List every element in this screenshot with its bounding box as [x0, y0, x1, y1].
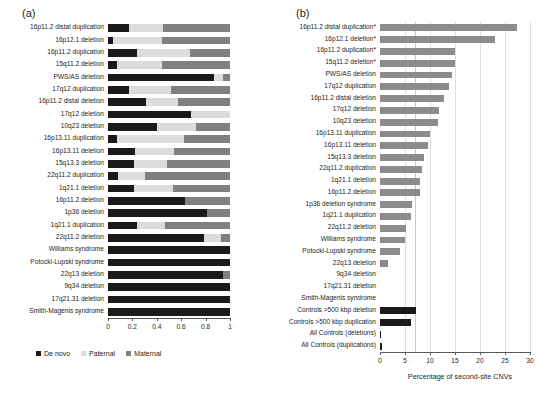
panel-a-bar-segment-maternal: [165, 222, 230, 229]
panel-b-bar: [380, 48, 455, 55]
panel-b-row-label: 1q21.1 duplication: [270, 212, 376, 219]
panel-b-gridline: [530, 22, 531, 352]
legend-item-maternal: Maternal: [126, 350, 161, 357]
panel-a-stacked-bar: [108, 283, 230, 290]
panel-a-row-label: 16p11.2 deletion: [0, 197, 104, 204]
panel-a-tick-label: 0.6: [169, 323, 193, 330]
panel-a-bar-segment-maternal: [184, 135, 230, 142]
panel-b-row-label: Williams syndrome: [270, 236, 376, 243]
panel-a-bar-segment-maternal: [223, 271, 230, 278]
panel-a-bar-segment-de-novo: [108, 24, 129, 31]
panel-a-stacked-bar: [108, 259, 230, 266]
panel-a-stacked-bar: [108, 98, 230, 105]
panel-b-row-label: Controls >500 kbp deletion: [270, 307, 376, 314]
panel-a-row-label: 17q12 duplication: [0, 86, 104, 93]
panel-a-row-label: 16p11.2 distal duplication: [0, 24, 104, 31]
panel-b-row-label: Potocki-Lupski syndrome: [270, 248, 376, 255]
panel-b-bar: [380, 142, 428, 149]
panel-a-category-labels: 16p11.2 distal duplication16p12.1 deleti…: [0, 22, 104, 318]
panel-b-row-label: 9q34 deletion: [270, 271, 376, 278]
panel-b-letter: (b): [296, 7, 309, 19]
panel-b-bar: [380, 154, 424, 161]
panel-a-row-label: 15q11.2 deletion: [0, 61, 104, 68]
panel-a-bar-segment-maternal: [185, 197, 230, 204]
panel-a-tick-label: 0: [96, 323, 120, 330]
panel-b-control-bar: [380, 319, 411, 326]
panel-a-bar-segment-paternal: [157, 123, 196, 130]
panel-a-row-label: 15q13.3 deletion: [0, 160, 104, 167]
panel-b-category-labels: 16p11.2 distal duplication*16p12.1 delet…: [270, 22, 376, 352]
panel-a-bar-segment-de-novo: [108, 172, 118, 179]
panel-b-bar: [380, 131, 430, 138]
panel-a-bar-segment-paternal: [135, 148, 174, 155]
panel-b-row-label: 17q12 duplication: [270, 83, 376, 90]
panel-a-stacked-bar: [108, 222, 230, 229]
panel-a-tick-label: 1: [218, 323, 242, 330]
panel-b-row-label: 15q11.2 deletion*: [270, 59, 376, 66]
panel-a-bar-segment-maternal: [223, 74, 230, 81]
panel-a-row-label: 17q12 deletion: [0, 111, 104, 118]
panel-b-tick-label: 5: [393, 357, 417, 364]
panel-a-stacked-bar: [108, 74, 230, 81]
panel-b-plot-area: [380, 22, 530, 352]
panel-a-bar-segment-de-novo: [108, 148, 135, 155]
panel-b-bar: [380, 189, 420, 196]
panel-b-control-bar: [380, 343, 382, 350]
panel-b-tick-label: 10: [418, 357, 442, 364]
panel-b-row-label: 16p11.2 distal deletion: [270, 95, 376, 102]
panel-a-bar-segment-paternal: [137, 222, 165, 229]
panel-b-row-label: All Controls (deletions): [270, 330, 376, 337]
panel-a-bar-segment-de-novo: [108, 308, 230, 315]
panel-b-control-bar: [380, 307, 416, 314]
panel-b-row-label: 16p13.11 deletion: [270, 142, 376, 149]
panel-b-bar: [380, 225, 406, 232]
panel-b-tick-label: 0: [368, 357, 392, 364]
panel-a-bar-segment-maternal: [190, 49, 230, 56]
panel-a-row-label: 1q21.1 deletion: [0, 185, 104, 192]
panel-b-tick-label: 15: [443, 357, 467, 364]
panel-a-bar-segment-de-novo: [108, 185, 134, 192]
panel-a-letter: (a): [22, 7, 35, 19]
panel-b-bar: [380, 237, 405, 244]
panel-b-tick: [505, 352, 506, 355]
panel-a-tick-label: 0.4: [145, 323, 169, 330]
panel-a-bar-segment-paternal: [129, 86, 172, 93]
panel-a-bar-segment-paternal: [204, 234, 221, 241]
panel-a-stacked-bar: [108, 148, 230, 155]
panel-a-stacked-bar: [108, 246, 230, 253]
panel-a-bar-segment-de-novo: [108, 86, 129, 93]
panel-b-tick: [380, 352, 381, 355]
panel-b-row-label: 16p11.2 distal duplication*: [270, 24, 376, 31]
panel-b-row-label: 22q13 deletion: [270, 260, 376, 267]
panel-b-bar: [380, 248, 400, 255]
panel-b-x-axis-title: Percentage of second-site CNVs: [380, 372, 536, 381]
panel-b-row-label: 16p11.2 duplication*: [270, 47, 376, 54]
panel-a-bar-segment-paternal: [117, 135, 184, 142]
panel-b-gridline: [455, 22, 456, 352]
panel-a-bar-segment-de-novo: [108, 271, 223, 278]
panel-a-bar-segment-de-novo: [108, 111, 191, 118]
panel-a-bar-segment-paternal: [117, 61, 162, 68]
panel-a-x-axis: [108, 318, 230, 319]
panel-a-bar-segment-de-novo: [108, 246, 230, 253]
panel-b-bar: [380, 260, 388, 267]
panel-b-row-label: All Controls (duplications): [270, 342, 376, 349]
panel-a-row-label: 16p11.2 duplication: [0, 49, 104, 56]
panel-a-bar-segment-maternal: [145, 172, 230, 179]
panel-a-bar-segment-paternal: [113, 37, 162, 44]
panel-a-row-label: 22q11.2 duplication: [0, 172, 104, 179]
panel-a-bar-segment-de-novo: [108, 209, 207, 216]
panel-a-bar-segment-maternal: [162, 37, 230, 44]
panel-b-row-label: 16p11.2 deletion: [270, 189, 376, 196]
panel-a-bar-segment-paternal: [137, 49, 189, 56]
panel-a-tick: [132, 318, 133, 321]
panel-a-stacked-bar: [108, 123, 230, 130]
panel-a-stacked-bar: [108, 49, 230, 56]
panel-a-bar-segment-maternal: [196, 123, 230, 130]
panel-a-bar-segment-paternal: [118, 172, 145, 179]
panel-a-stacked-bar: [108, 61, 230, 68]
panel-a-bar-segment-paternal: [129, 24, 163, 31]
panel-b-tick-label: 30: [518, 357, 536, 364]
panel-a-stacked-bar: [108, 271, 230, 278]
panel-a-row-label: 22q13 deletion: [0, 271, 104, 278]
